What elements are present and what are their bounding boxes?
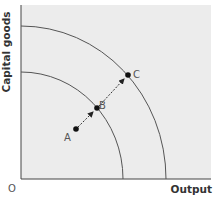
label-a: A (64, 132, 71, 143)
label-b: B (99, 100, 106, 111)
ppf-chart: A B C Capital goods Output O (0, 0, 218, 203)
origin-label: O (8, 182, 16, 196)
y-axis-label: Capital goods (0, 2, 13, 102)
plot-area (21, 5, 211, 179)
chart-canvas: A B C (0, 0, 218, 203)
point-c (125, 72, 131, 78)
x-axis-label: Output (171, 182, 212, 196)
point-a (73, 126, 79, 132)
label-c: C (133, 69, 140, 80)
